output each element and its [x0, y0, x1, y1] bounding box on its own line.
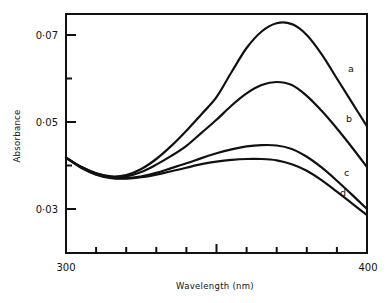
curves: [66, 22, 367, 215]
x-min-label: 300: [56, 262, 75, 273]
curve-label-c: c: [344, 167, 349, 178]
plot-frame: [66, 14, 367, 253]
curve-label-a: a: [348, 63, 354, 74]
curve-c: [66, 145, 367, 209]
y-tick-label: 0·03: [36, 204, 58, 215]
x-axis-title: Wavelength (nm): [176, 281, 254, 291]
y-tick-label: 0·07: [36, 30, 58, 41]
curve-labels: abcd: [340, 63, 354, 198]
curve-label-b: b: [346, 113, 352, 124]
x-axis-ticks: [96, 244, 337, 253]
absorbance-chart: 0·030·050·07 abcd 300 400 Wavelength (nm…: [0, 0, 387, 303]
curve-label-d: d: [340, 187, 346, 198]
y-tick-label: 0·05: [36, 117, 58, 128]
y-axis-ticks: 0·030·050·07: [36, 30, 76, 215]
x-max-label: 400: [358, 262, 377, 273]
y-axis-title: Absorbance: [12, 109, 22, 162]
